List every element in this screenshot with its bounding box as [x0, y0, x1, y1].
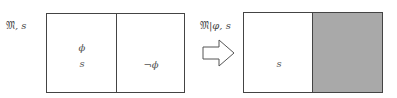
hollow-right-arrow-icon	[202, 38, 236, 68]
state-s-label: s	[276, 58, 281, 69]
phi-formula-label: ϕ	[79, 42, 86, 53]
left-model-label: 𝔐, s	[6, 20, 27, 32]
left-model-divider	[116, 13, 117, 93]
state-symbol: s	[21, 20, 26, 31]
right-model-label: 𝔐|φ, s	[200, 20, 231, 32]
model-symbol: 𝔐	[6, 20, 15, 31]
update-and-state: |φ, s	[209, 20, 231, 31]
removed-region-shade	[312, 13, 382, 92]
model-symbol: 𝔐	[200, 20, 209, 31]
right-model-divider	[312, 12, 313, 93]
state-s-label: s	[79, 58, 84, 69]
not-phi-formula-label: ¬ϕ	[143, 59, 158, 70]
